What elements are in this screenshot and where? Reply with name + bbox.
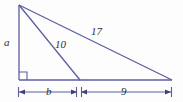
label-base-b: b [46,86,52,97]
label-side-a: a [4,37,10,48]
geometry-figure: a 10 17 b 9 [0,0,183,102]
label-hypotenuse-17: 17 [91,26,102,37]
right-angle-marker [19,72,27,80]
triangle-diagram-svg [0,0,183,102]
label-base-9: 9 [121,86,127,97]
arrowhead-b-left [19,89,25,94]
label-cevian-10: 10 [55,39,66,50]
cevian-line [19,5,80,80]
hypotenuse-line [19,5,172,80]
arrowhead-9-right [165,89,171,94]
